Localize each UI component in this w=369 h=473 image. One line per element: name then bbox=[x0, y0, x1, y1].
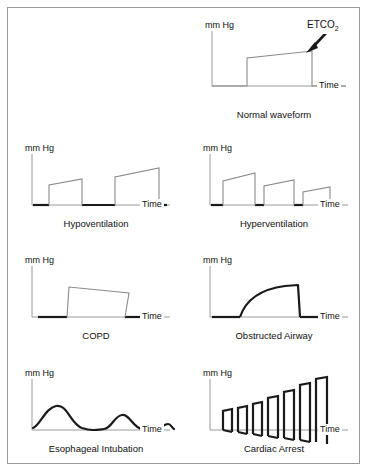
panel-caption: Obstructed Airway bbox=[190, 330, 358, 341]
x-axis-label: Time bbox=[317, 80, 341, 91]
x-axis-label: Time bbox=[140, 311, 164, 322]
panel-hyperventilation: mm Hg Time Hyperventilation bbox=[190, 141, 358, 236]
x-axis-label: Time bbox=[318, 199, 342, 210]
x-axis-label: Time bbox=[318, 424, 342, 435]
etco2-label-sub: 2 bbox=[335, 25, 339, 32]
y-axis-label: mm Hg bbox=[201, 255, 234, 266]
panel-cardiac-arrest: mm Hg Time Cardiac Arrest bbox=[190, 366, 358, 461]
etco2-arrow-icon bbox=[306, 32, 327, 53]
panel-hypoventilation: mm Hg Time Hypoventilation bbox=[12, 141, 180, 236]
panel-caption: Hyperventilation bbox=[190, 218, 358, 229]
panel-caption: Esophageal Intubation bbox=[12, 443, 180, 454]
y-axis-label: mm Hg bbox=[23, 368, 56, 379]
x-axis-label: Time bbox=[318, 311, 342, 322]
panel-normal-waveform: mm Hg Time ETCO2 Normal waveform bbox=[194, 18, 354, 123]
y-axis-label: mm Hg bbox=[201, 368, 234, 379]
panel-caption: Hypoventilation bbox=[12, 218, 180, 229]
y-axis-label: mm Hg bbox=[201, 143, 234, 154]
panel-esophageal-intubation: mm Hg Time Esophageal Intubation bbox=[12, 366, 180, 461]
panel-caption: Cardiac Arrest bbox=[190, 443, 358, 454]
x-axis-label: Time bbox=[140, 199, 164, 210]
etco2-label-main: ETCO bbox=[307, 19, 335, 30]
panel-copd: mm Hg Time COPD bbox=[12, 253, 180, 348]
figure-frame: mm Hg Time ETCO2 Normal waveform mm Hg T… bbox=[7, 7, 360, 464]
panel-caption: Normal waveform bbox=[194, 109, 354, 120]
y-axis-label: mm Hg bbox=[203, 20, 236, 31]
y-axis-label: mm Hg bbox=[23, 143, 56, 154]
x-axis-label: Time bbox=[140, 424, 164, 435]
panel-caption: COPD bbox=[12, 330, 180, 341]
panel-obstructed-airway: mm Hg Time Obstructed Airway bbox=[190, 253, 358, 348]
etco2-annotation: ETCO2 bbox=[306, 19, 340, 34]
y-axis-label: mm Hg bbox=[23, 255, 56, 266]
